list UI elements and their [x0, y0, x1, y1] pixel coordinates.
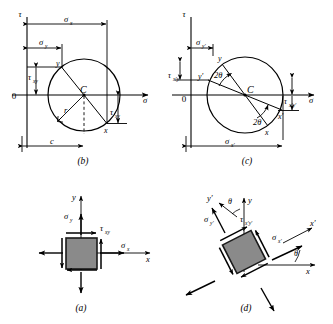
- panel-b-tau-xy-left-label: τ xy: [28, 72, 38, 84]
- panel-b: τ σ 0 C r σ x σ y τ xy τ xy y x c (b): [12, 9, 148, 167]
- panel-b-tau-xy-right-subscript: xy: [114, 113, 120, 119]
- panel-d-yp-axis-label: y′: [206, 193, 213, 203]
- panel-c-tau-xpyp-right-label: τ x′y′: [284, 97, 297, 108]
- panel-a-sigma-y-glyph: σ: [64, 211, 69, 221]
- panel-c-sigma-axis-label: σ: [309, 95, 314, 105]
- panel-d-xp-axis: [283, 228, 312, 243]
- panel-c-tau-xpyp-left-glyph: τ: [168, 71, 172, 80]
- panel-b-tau-xy-right-label: τ xy: [110, 107, 120, 119]
- panel-b-sigma-y-subscript: y: [44, 43, 48, 49]
- panel-c-two-theta-lower-label: 2θ: [253, 117, 261, 127]
- panel-d-x-axis-label: x: [305, 266, 310, 276]
- panel-d-sigma-xp-label: σ x′: [272, 232, 282, 244]
- panel-b-radius-line: [59, 95, 84, 120]
- panel-d-sigma-xp-subscript: x′: [277, 238, 282, 244]
- panel-c-sigma-xp-dim-glyph: σ: [225, 136, 230, 146]
- mohr-circle-figure: τ σ 0 C r σ x σ y τ xy τ xy y x c (b): [0, 0, 333, 324]
- panel-d-sigma-xp-opposite-arrow: [186, 281, 215, 295]
- panel-b-c-dimension-label: c: [50, 136, 54, 146]
- panel-b-caption: (b): [77, 156, 88, 167]
- panel-d-y-axis-label: y: [247, 195, 252, 205]
- panel-a-sigma-x-label: σ x: [121, 240, 130, 252]
- panel-b-point-y-label: y: [55, 59, 60, 68]
- panel-b-point-x-label: x: [103, 126, 108, 135]
- panel-c-caption: (c): [242, 156, 253, 167]
- panel-d-sigma-yp-arrow: [212, 208, 225, 233]
- panel-c-sigma-yp-subscript: y′: [201, 43, 206, 49]
- panel-b-tau-axis-label: τ: [18, 9, 22, 19]
- panel-a-y-axis-label: y: [71, 192, 76, 202]
- panel-c-tau-xpyp-left-label: τ x′y′: [168, 71, 181, 82]
- panel-a-sigma-x-subscript: x: [126, 246, 130, 252]
- panel-b-sigma-x-subscript: x: [69, 20, 73, 26]
- panel-c-tau-axis-label: τ: [182, 9, 186, 19]
- panel-d-tau-xpyp-glyph: τ: [240, 214, 244, 224]
- panel-c-tau-xpyp-right-subscript: x′y′: [288, 102, 297, 108]
- panel-a-sigma-y-label: σ y: [64, 211, 73, 223]
- panel-b-sigma-y-glyph: σ: [39, 37, 44, 47]
- panel-c-sigma-yp-label: σ y′: [196, 37, 206, 49]
- panel-c-origin-label: 0: [182, 94, 187, 104]
- panel-d-theta-arc-upper: [232, 209, 240, 214]
- panel-c: τ σ 0 C σ y′ τ x′y′ τ x′y′ y y′ x x′ 2θ …: [168, 9, 314, 167]
- panel-c-point-xp-label: x′: [277, 112, 284, 121]
- panel-c-point-yp-label: y′: [197, 72, 204, 81]
- panel-b-origin-label: 0: [12, 91, 17, 101]
- panel-b-sigma-x-glyph: σ: [64, 14, 69, 24]
- panel-c-sigma-xp-dim-subscript: x′: [230, 142, 235, 148]
- panel-b-radius-label: r: [64, 105, 68, 115]
- panel-b-tau-xy-left-subscript: xy: [32, 78, 38, 84]
- panel-d-caption: (d): [240, 303, 251, 314]
- panel-b-center-label: C: [80, 84, 87, 95]
- panel-d-sigma-yp-subscript: y′: [209, 220, 214, 226]
- panel-c-point-x-label: x: [264, 128, 269, 137]
- panel-d-xp-axis-label: x′: [309, 218, 316, 228]
- panel-b-sigma-y-label: σ y: [39, 37, 48, 49]
- panel-c-tau-xpyp-right-glyph: τ: [284, 97, 288, 106]
- panel-d: x y x′ y′ θ θ σ x′ σ y′ τ x′y′ (d): [186, 193, 316, 314]
- panel-a-x-axis-label: x: [145, 254, 150, 264]
- panel-d-sigma-yp-glyph: σ: [204, 214, 209, 224]
- panel-a-sigma-x-glyph: σ: [121, 240, 126, 250]
- panel-c-two-theta-upper-label: 2θ: [214, 70, 222, 80]
- panel-d-tau-xpyp-label: τ x′y′: [240, 214, 253, 226]
- panel-b-sigma-axis-label: σ: [143, 95, 148, 105]
- panel-a-caption: (a): [75, 303, 86, 314]
- panel-c-center-label: C: [247, 84, 254, 95]
- panel-d-theta-upper-label: θ: [228, 197, 232, 206]
- panel-a-tau-xy-subscript: xy: [104, 229, 110, 235]
- panel-d-theta-lower-label: θ: [294, 249, 298, 258]
- panel-d-sigma-yp-label: σ y′: [204, 214, 214, 226]
- panel-d-tau-xpyp-subscript: x′y′: [244, 220, 253, 226]
- panel-a-tau-xy-glyph: τ: [100, 223, 104, 233]
- panel-c-sigma-yp-glyph: σ: [196, 37, 201, 47]
- panel-c-tau-xpyp-left-subscript: x′y′: [172, 76, 181, 82]
- panel-b-tau-xy-left-glyph: τ: [28, 72, 32, 82]
- panel-c-point-y-label: y: [217, 54, 222, 63]
- panel-d-sigma-xp-glyph: σ: [272, 232, 277, 242]
- panel-a-tau-xy-label: τ xy: [100, 223, 110, 235]
- panel-a-sigma-y-subscript: y: [69, 217, 73, 223]
- panel-d-sigma-yp-opposite-arrow: [261, 288, 274, 311]
- panel-a: x y σ x σ y τ xy (a): [39, 192, 150, 314]
- panel-a-stress-element: [66, 238, 97, 269]
